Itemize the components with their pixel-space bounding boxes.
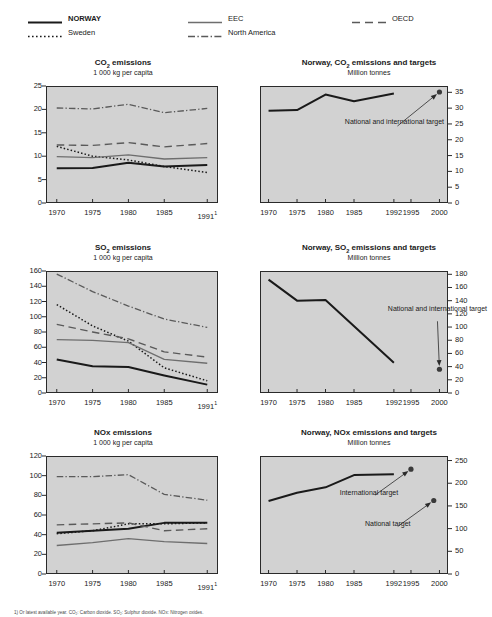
y-axis-tick-label: 60 [8, 511, 42, 519]
series-line-oecd [57, 143, 208, 147]
y-axis-tick-label: 100 [455, 525, 481, 533]
x-axis-tick-label: 1975 [75, 209, 111, 217]
x-axis-tick-label: 1985 [336, 209, 372, 217]
series-line-norway-emissions [269, 280, 394, 363]
y-axis-tick-label: 20 [8, 550, 42, 558]
y-axis-tick-label: 40 [455, 363, 481, 371]
target-annotation-label: National and international target [373, 305, 492, 314]
legend-swatch-sweden-dotted-icon [28, 32, 62, 41]
series-line-north-america [57, 104, 208, 112]
y-axis-tick-label: 40 [8, 359, 42, 367]
x-axis-tick-label: 1985 [146, 399, 182, 407]
x-axis-tick-label: 1975 [75, 399, 111, 407]
target-annotation-label: National target [338, 520, 438, 529]
legend-label-eec: EEC [228, 14, 243, 23]
y-axis-tick-label: 30 [455, 104, 481, 112]
y-axis-tick-label: 150 [455, 502, 481, 510]
x-axis-tick-label: 1970 [39, 580, 75, 588]
x-axis-tick-label: 1980 [110, 209, 146, 217]
annotation-arrowhead-icon [402, 471, 408, 476]
y-axis-tick-label: 120 [8, 452, 42, 460]
y-axis-tick-label: 60 [8, 343, 42, 351]
series-line-eec [57, 155, 208, 159]
y-axis-tick-label: 160 [8, 267, 42, 275]
y-axis-tick-label: 250 [455, 457, 481, 465]
x-axis-tick-label: 1985 [336, 399, 372, 407]
y-axis-tick-label: 100 [8, 313, 42, 321]
chart-panel-norway-co2-targets: Norway, CO2 emissions and targetsMillion… [246, 58, 492, 233]
y-axis-tick-label: 0 [8, 389, 42, 397]
legend-swatch-north-america-dash-dot-icon [188, 32, 222, 41]
target-marker-dot [431, 498, 436, 503]
chart-panel-norway-nox-targets: Norway, NOx emissions and targetsMillion… [246, 428, 492, 608]
annotation-arrowhead-icon [425, 502, 431, 507]
chart-panel-so2-per-capita: SO2 emissions1 000 kg per capita02040608… [0, 243, 246, 425]
legend-swatch-oecd-long-dash-icon [352, 18, 386, 27]
y-axis-tick-label: 80 [8, 328, 42, 336]
target-marker-dot [437, 89, 442, 94]
y-axis-tick-label: 5 [455, 183, 481, 191]
y-axis-tick-label: 200 [455, 479, 481, 487]
y-axis-tick-label: 180 [455, 270, 481, 278]
y-axis-tick-label: 140 [455, 297, 481, 305]
y-axis-tick-label: 20 [8, 374, 42, 382]
y-axis-tick-label: 60 [455, 349, 481, 357]
y-axis-tick-label: 100 [8, 472, 42, 480]
series-line-norway-emissions [269, 94, 394, 111]
x-axis-tick-label: 1975 [75, 580, 111, 588]
y-axis-tick-label: 35 [455, 88, 481, 96]
x-axis-tick-label: 19911 [189, 580, 225, 592]
series-line-norway [57, 359, 208, 384]
annotation-arrowhead-icon [437, 360, 442, 366]
x-axis-tick-label: 1970 [39, 209, 75, 217]
legend-label-north-america: North America [228, 28, 276, 37]
series-line-north-america [57, 475, 208, 501]
target-marker-dot [408, 467, 413, 472]
series-line-eec [57, 340, 208, 364]
y-axis-tick-label: 0 [8, 570, 42, 578]
series-line-eec [57, 539, 208, 546]
chart-legend: NORWAY Sweden EEC North America OECD [0, 10, 492, 48]
y-axis-tick-label: 10 [8, 152, 42, 160]
x-axis-tick-label: 1970 [39, 399, 75, 407]
x-axis-tick-label: 19911 [189, 399, 225, 411]
y-axis-tick-label: 5 [8, 176, 42, 184]
target-marker-dot [437, 367, 442, 372]
chart-panel-co2-per-capita: CO2 emissions1 000 kg per capita05101520… [0, 58, 246, 233]
y-axis-tick-label: 100 [455, 323, 481, 331]
chart-panel-norway-so2-targets: Norway, SO2 emissions and targetsMillion… [246, 243, 492, 425]
y-axis-tick-label: 50 [455, 547, 481, 555]
x-axis-tick-label: 1985 [146, 580, 182, 588]
y-axis-tick-label: 0 [8, 199, 42, 207]
legend-swatch-norway-solid-thick-icon [28, 18, 62, 27]
y-axis-tick-label: 25 [8, 82, 42, 90]
target-annotation-label: International target [319, 489, 419, 498]
x-axis-tick-label: 1980 [110, 580, 146, 588]
annotation-leader-line [437, 321, 439, 361]
x-axis-tick-label: 1985 [146, 209, 182, 217]
chart-footnote: 1) Or latest available year. CO₂: Carbon… [14, 610, 203, 616]
chart-panel-nox-per-capita: NOx emissions1 000 kg per capita02040608… [0, 428, 246, 608]
x-axis-tick-label: 2000 [421, 580, 457, 588]
y-axis-tick-label: 80 [455, 336, 481, 344]
y-axis-tick-label: 25 [455, 120, 481, 128]
y-axis-tick-label: 80 [8, 491, 42, 499]
x-axis-tick-label: 2000 [421, 399, 457, 407]
series-line-north-america [57, 274, 208, 327]
y-axis-tick-label: 140 [8, 282, 42, 290]
y-axis-tick-label: 160 [455, 283, 481, 291]
x-axis-tick-label: 1985 [336, 580, 372, 588]
target-annotation-label: National and international target [331, 118, 457, 127]
y-axis-tick-label: 10 [455, 167, 481, 175]
series-line-sweden [57, 305, 208, 381]
series-line-oecd [57, 523, 208, 531]
y-axis-tick-label: 20 [455, 136, 481, 144]
y-axis-tick-label: 0 [455, 570, 481, 578]
legend-label-oecd: OECD [392, 14, 414, 23]
y-axis-tick-label: 15 [8, 129, 42, 137]
y-axis-tick-label: 40 [8, 531, 42, 539]
legend-label-sweden: Sweden [68, 28, 95, 37]
y-axis-tick-label: 15 [455, 152, 481, 160]
series-line-oecd [57, 324, 208, 357]
y-axis-tick-label: 20 [8, 105, 42, 113]
